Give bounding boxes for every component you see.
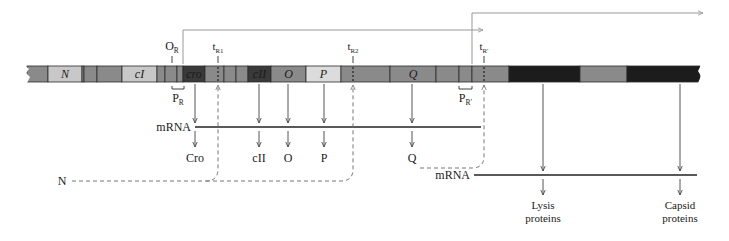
gene-label-q: Q (409, 67, 418, 81)
site-p-rp-sub: R′ (466, 98, 473, 107)
late-product-line1: Capsid (665, 199, 696, 211)
site-t-r2: tR2 (347, 40, 359, 54)
dna-segment (177, 66, 183, 82)
antiterminator-paths: N (58, 85, 484, 188)
product-cii: cII (252, 151, 265, 165)
gene-label-cro: cro (186, 67, 202, 81)
site-t-rp-sub: R′ (483, 47, 490, 54)
site-t-r2-sub: R2 (351, 47, 360, 54)
site-p-r-sub: R (179, 98, 184, 107)
late-transcript-arrow (472, 13, 703, 64)
dna-segment (157, 66, 165, 82)
dna-segment (27, 66, 48, 82)
early-transcript-arrow (183, 30, 483, 64)
mrna-label: mRNA (435, 168, 470, 182)
gene-label-cii: cII (253, 67, 267, 81)
gene-label-o: O (284, 67, 293, 81)
n-antitermination-path-tr2 (206, 85, 353, 181)
regulator-n: N (58, 174, 67, 188)
dna-strand: NcIcrocIIOPQ (21, 65, 708, 83)
product-p: P (321, 151, 328, 165)
dna-segment (627, 66, 700, 82)
site-t-r1: tR1 (212, 40, 223, 54)
dna-segment (205, 66, 224, 82)
dna-segment (341, 66, 390, 82)
site-t-r1-sub: R1 (216, 47, 224, 54)
gene-products: CrocIIOPQLysisproteinsCapsidproteins (186, 84, 698, 224)
dna-segment (459, 66, 472, 82)
promoter-bracket (172, 86, 184, 89)
site-o-r-sub: R (174, 46, 179, 55)
dna-segment (97, 66, 122, 82)
product-cro: Cro (186, 151, 204, 165)
transcript-arrows (183, 13, 703, 64)
mrna-lines: mRNAmRNA (156, 120, 697, 182)
mrna-label: mRNA (156, 120, 191, 134)
gene-label-n: N (60, 67, 70, 81)
late-product-line2: proteins (662, 212, 697, 224)
promoter-bracket (459, 86, 472, 89)
late-product-line2: proteins (525, 212, 560, 224)
site-o-r-main: O (165, 39, 174, 53)
dna-segment (436, 66, 459, 82)
gene-label-ci: cI (135, 67, 145, 81)
dna-segment (580, 66, 627, 82)
n-antitermination-path-tr1 (72, 85, 218, 181)
late-product-label: Lysisproteins (525, 199, 560, 224)
late-product-label: Capsidproteins (662, 199, 697, 224)
dna-segment (236, 66, 248, 82)
site-p-r: PR (172, 91, 184, 107)
lambda-operon-diagram: NcIcrocIIOPQ ORtR1tR2tR′PRPR′ mRNAmRNA C… (0, 0, 729, 241)
site-t-rp: tR′ (479, 40, 489, 54)
dna-segment (224, 66, 236, 82)
site-p-rp: PR′ (459, 91, 473, 107)
late-product-line1: Lysis (531, 199, 554, 211)
gene-label-p: P (319, 67, 328, 81)
dna-segment (165, 66, 177, 82)
dna-segment (84, 66, 97, 82)
dna-segment (509, 66, 580, 82)
product-q: Q (408, 151, 417, 165)
site-o-r: OR (165, 39, 179, 55)
product-o: O (284, 151, 293, 165)
dna-segment (472, 66, 509, 82)
